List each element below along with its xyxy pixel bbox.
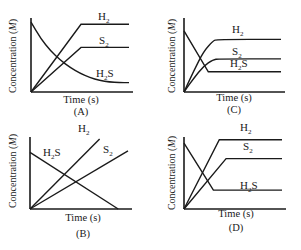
y-axis-label: Concentration (M): [7, 134, 19, 208]
x-axis-label: Time (s): [65, 212, 101, 224]
series-s2-label: S2: [103, 143, 113, 158]
y-label-text: Concentration (: [7, 30, 19, 93]
y-axis-label: Concentration (M): [166, 19, 178, 93]
label-main: H: [232, 23, 240, 35]
concentration-time-figure: H2S2H2SConcentration (M)Time (s)(A)H2S2H…: [0, 0, 301, 250]
label-tail: S: [241, 57, 247, 69]
y-label-close: ): [166, 19, 178, 22]
y-label-close: ): [7, 19, 19, 22]
label-main: H: [78, 122, 86, 134]
y-label-close: ): [166, 136, 178, 139]
panel-a: H2S2H2SConcentration (M)Time (s)(A): [7, 10, 133, 118]
y-label-text: Concentration (: [7, 145, 19, 208]
label-main: H: [43, 146, 51, 158]
series-h2-label: H2: [98, 10, 110, 25]
label-main: H: [240, 121, 248, 133]
panel-label: (D): [229, 222, 244, 234]
y-axis-label: Concentration (M): [166, 136, 178, 210]
series-h2-line: [184, 140, 282, 209]
y-label-text: Concentration (: [166, 30, 178, 93]
label-subscript: 2: [105, 41, 109, 49]
panel-label: (A): [74, 106, 89, 118]
y-axis-label: Concentration (M): [7, 19, 19, 93]
label-tail: S: [54, 146, 60, 158]
panel-b: H2S2H2SConcentration (M)Time (s)(B): [7, 122, 132, 240]
label-subscript: 2: [106, 17, 110, 25]
label-subscript: 2: [240, 30, 244, 38]
series-h2s-label: H2S: [240, 179, 258, 194]
series-h2-label: H2: [78, 122, 90, 137]
label-main: H: [96, 67, 104, 79]
series-s2-label: S2: [243, 140, 253, 155]
panel-c: H2S2H2SConcentration (M)Time (s)(C): [166, 18, 285, 116]
label-subscript: 2: [249, 147, 253, 155]
label-tail: S: [107, 67, 113, 79]
series-h2s-line: [184, 143, 282, 190]
label-tail: S: [251, 179, 257, 191]
label-subscript: 2: [86, 129, 90, 137]
series-h2-label: H2: [240, 121, 252, 136]
y-label-text: Concentration (: [166, 147, 178, 210]
series-s2-line: [31, 47, 129, 92]
panel-label: (B): [76, 228, 91, 240]
panel-label: (C): [227, 104, 242, 116]
series-h2s-line: [31, 22, 129, 82]
y-label-close: ): [7, 134, 19, 137]
label-subscript: 2: [109, 150, 113, 158]
x-axis-label: Time (s): [63, 94, 99, 106]
x-axis-label: Time (s): [218, 208, 254, 220]
series-h2-label: H2: [232, 23, 244, 38]
label-main: H: [240, 179, 248, 191]
label-subscript: 2: [248, 128, 252, 136]
panel-d: H2S2H2SConcentration (M)Time (s)(D): [166, 121, 286, 234]
label-main: H: [230, 57, 238, 69]
series-h2s-label: H2S: [43, 146, 61, 161]
x-axis-label: Time (s): [216, 92, 252, 104]
label-main: H: [98, 10, 106, 22]
